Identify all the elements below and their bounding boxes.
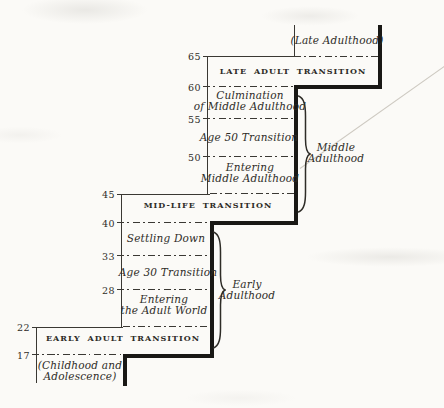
era-label-middle-adulthood: Middle Adulthood	[308, 142, 365, 164]
age-tick-17: 17	[8, 350, 30, 361]
stage-settling-down: Settling Down	[127, 233, 205, 244]
stage-age-50-transition: Age 50 Transition	[200, 132, 298, 143]
age-tick-40: 40	[93, 218, 115, 229]
stage-childhood-and-adolescence: (Childhood and Adolescence)	[38, 360, 122, 382]
stage-mid-life-transition: MID-LIFE TRANSITION	[144, 200, 273, 210]
age-tick-55: 55	[179, 114, 201, 125]
staircase-vertical-bottom	[123, 354, 127, 386]
dashline-age-40	[117, 222, 210, 223]
dashline-age-65-right	[294, 56, 378, 57]
levinson-life-stages-diagram: 65 60 55 50 45 40 33 28 22 17 (Late Adul…	[0, 0, 444, 408]
age-tick-65: 65	[179, 51, 201, 62]
dashline-age-33	[117, 255, 210, 256]
stage-early-adult-transition: EARLY ADULT TRANSITION	[46, 333, 200, 343]
dashline-age-45-right	[210, 193, 294, 194]
dashline-age-55	[203, 118, 294, 119]
stage-culmination-of-middle-adulthood: Culmination of Middle Adulthood	[194, 90, 307, 112]
stage-age-30-transition: Age 30 Transition	[119, 267, 217, 278]
age-tick-45: 45	[93, 189, 115, 200]
line-age-65	[203, 56, 294, 57]
age-tick-33: 33	[93, 251, 115, 262]
dashline-age-60	[203, 86, 294, 87]
staircase-step-40	[210, 221, 298, 225]
staircase-step-60	[294, 85, 382, 89]
dashline-age-17	[32, 354, 121, 355]
stage-late-adulthood: (Late Adulthood)	[290, 35, 383, 46]
age-tick-28: 28	[93, 285, 115, 296]
age-tick-22: 22	[8, 322, 30, 333]
stage-entering-middle-adulthood: Entering Middle Adulthood	[201, 162, 299, 184]
dashline-age-50	[203, 156, 294, 157]
dashline-age-22-right	[123, 326, 210, 327]
line-age-45	[117, 194, 210, 195]
age-tick-50: 50	[179, 152, 201, 163]
era-label-early-adulthood: Early Adulthood	[219, 279, 276, 301]
line-age-22	[32, 327, 123, 328]
staircase-step-17	[123, 354, 214, 358]
stage-late-adult-transition: LATE ADULT TRANSITION	[220, 66, 367, 76]
stage-entering-the-adult-world: Entering the Adult World	[120, 294, 207, 316]
dashline-age-28	[117, 289, 210, 290]
